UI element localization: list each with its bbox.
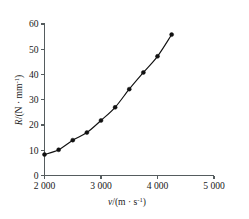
x-tick-label: 3 000	[90, 180, 112, 191]
data-point-marker	[127, 87, 131, 91]
x-tick-label: 5 000	[203, 180, 225, 191]
data-point-marker	[85, 131, 89, 135]
x-tick-label: 4 000	[147, 180, 169, 191]
y-axis-tick-labels: 0102030405060	[29, 18, 39, 181]
data-point-marker	[57, 148, 61, 152]
svg-text:v/(m · s-1): v/(m · s-1)	[108, 196, 146, 208]
y-tick-label: 60	[29, 18, 39, 29]
data-point-marker	[71, 138, 75, 142]
data-series-markers	[43, 33, 174, 157]
line-chart: 0102030405060 2 0003 0004 0005 000 R/(N …	[0, 0, 249, 219]
y-tick-label: 30	[29, 94, 39, 105]
y-tick-label: 10	[29, 145, 39, 156]
data-point-marker	[99, 118, 103, 122]
data-point-marker	[113, 105, 117, 109]
chart-figure: 0102030405060 2 0003 0004 0005 000 R/(N …	[0, 0, 249, 219]
svg-text:R/(N · mm-1): R/(N · mm-1)	[13, 75, 25, 126]
data-point-marker	[170, 33, 174, 37]
chart-axes	[45, 24, 215, 176]
data-point-marker	[141, 70, 145, 74]
data-point-marker	[43, 153, 47, 157]
y-axis-title: R/(N · mm-1)	[13, 75, 25, 126]
data-series-line	[45, 35, 172, 155]
y-tick-label: 50	[29, 44, 39, 55]
y-tick-label: 40	[29, 69, 39, 80]
y-tick-label: 20	[29, 119, 39, 130]
x-tick-label: 2 000	[34, 180, 56, 191]
x-axis-tick-labels: 2 0003 0004 0005 000	[34, 180, 225, 191]
data-point-marker	[156, 54, 160, 58]
x-axis-title: v/(m · s-1)	[108, 196, 146, 208]
